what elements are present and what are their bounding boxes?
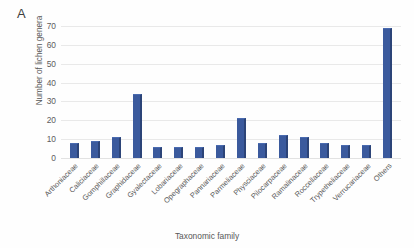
y-axis-tick-label: 30 <box>47 96 56 106</box>
x-axis-title: Taxonomic family <box>0 231 414 241</box>
bar <box>383 28 392 158</box>
bar <box>216 145 225 158</box>
y-axis-title: Number of lichen genera <box>35 0 44 136</box>
y-axis-tick-label: 20 <box>47 115 56 125</box>
bar-slot <box>356 26 377 158</box>
bar <box>174 147 183 158</box>
bar-slot <box>64 26 85 158</box>
bar-slot <box>189 26 210 158</box>
figure-panel-a: A Number of lichen genera 01020304050607… <box>0 0 414 248</box>
bar <box>300 137 309 158</box>
bar-slot <box>127 26 148 158</box>
bar <box>320 143 329 158</box>
x-label-slot: Parmeliaceae <box>231 160 252 230</box>
bar-slot <box>273 26 294 158</box>
plot-area: 010203040506070 <box>61 26 401 158</box>
bar-slot <box>231 26 252 158</box>
bar-slot <box>106 26 127 158</box>
bar-slot <box>210 26 231 158</box>
bar <box>362 145 371 158</box>
bar <box>258 143 267 158</box>
bar <box>133 94 142 158</box>
bar-slot <box>252 26 273 158</box>
gridline: 0 <box>61 158 401 159</box>
y-axis-tick-label: 70 <box>47 21 56 31</box>
bar-slot <box>315 26 336 158</box>
bar-slot <box>168 26 189 158</box>
bar-slot <box>377 26 398 158</box>
y-axis-tick-label: 0 <box>51 153 56 163</box>
y-axis-tick-label: 50 <box>47 59 56 69</box>
x-axis-tick-labels: ArthoniaceaeCaliciaceaeGomphillaceaeGrap… <box>61 160 401 230</box>
bar <box>195 147 204 158</box>
bar <box>70 143 79 158</box>
y-axis-tick-label: 10 <box>47 134 56 144</box>
x-label-slot: Others <box>377 160 398 230</box>
bar <box>153 147 162 158</box>
bar-series <box>61 26 401 158</box>
panel-letter: A <box>17 6 26 21</box>
bar <box>112 137 121 158</box>
y-axis-tick-label: 60 <box>47 40 56 50</box>
bar <box>91 141 100 158</box>
bar-slot <box>335 26 356 158</box>
bar <box>279 135 288 158</box>
bar-slot <box>85 26 106 158</box>
bar <box>237 118 246 158</box>
bar-slot <box>148 26 169 158</box>
x-label-slot: Verrucariaceae <box>356 160 377 230</box>
bar-slot <box>294 26 315 158</box>
y-axis-tick-label: 40 <box>47 78 56 88</box>
bar <box>341 145 350 158</box>
